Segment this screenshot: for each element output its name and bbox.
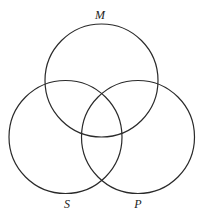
- label-m: M: [94, 8, 106, 22]
- venn-svg: M S P: [0, 0, 203, 217]
- label-s: S: [64, 197, 70, 211]
- label-p: P: [133, 197, 142, 211]
- venn-diagram: M S P: [0, 0, 203, 217]
